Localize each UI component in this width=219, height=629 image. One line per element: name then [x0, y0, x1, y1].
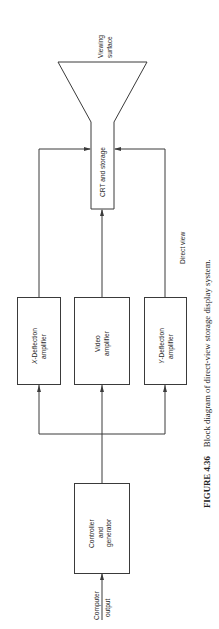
arrow-up-icon [163, 385, 167, 392]
video-label-line2: amplifier [103, 330, 111, 356]
video-label-line1: Video [94, 335, 101, 352]
x-deflection-to-crt-connector [39, 147, 91, 297]
figure-caption-body: Block diagram of direct-view storage dis… [202, 259, 212, 447]
arrow-right-icon [84, 147, 91, 151]
computer-output-label-line2: output [104, 598, 112, 617]
arrow-up-icon [100, 385, 104, 392]
video-to-crt-connector [100, 209, 104, 297]
crt-funnel [58, 62, 147, 122]
computer-output-input: Computer output [93, 573, 112, 620]
x-deflection-label-line2: amplifier [40, 333, 48, 359]
direct-view-annotation: Direct view [179, 232, 186, 264]
funnel-left-edge [58, 62, 91, 122]
direct-view-label: Direct view [179, 232, 186, 264]
arrow-up-icon [100, 573, 104, 580]
figure-caption-text: FIGURE 4.36Block diagram of direct-view … [202, 259, 212, 508]
arrow-left-icon [114, 147, 121, 151]
computer-output-label-line1: Computer [93, 590, 101, 620]
figure-number: FIGURE 4.36 [202, 456, 212, 508]
controller-label-line1: Controller [88, 519, 95, 548]
video-amplifier-block: Video amplifier [75, 298, 130, 385]
controller-bus-connector [37, 385, 167, 483]
controller-label-line2: and [97, 527, 104, 538]
viewing-surface-label-line1: Viewing [97, 35, 105, 58]
crt-storage-block: CRT and storage [91, 122, 114, 209]
figure-caption: FIGURE 4.36Block diagram of direct-view … [202, 259, 212, 508]
controller-generator-block: Controller and generator [75, 484, 130, 574]
y-deflection-to-crt-connector [114, 147, 165, 297]
viewing-surface-label: Viewing surface [97, 35, 113, 58]
arrow-up-icon [100, 209, 104, 216]
block-diagram: Viewing surface CRT and storage Direct v… [0, 0, 219, 629]
viewing-surface-label-line2: surface [106, 36, 113, 58]
x-deflection-amplifier-block: X-Deflection amplifier [18, 298, 61, 385]
arrow-up-icon [37, 385, 41, 392]
crt-storage-label: CRT and storage [99, 147, 107, 197]
y-deflection-amplifier-block: Y-Deflection amplifier [145, 298, 187, 385]
controller-label-line3: generator [105, 518, 113, 547]
y-deflection-label-line1: Y-Deflection [158, 328, 165, 364]
x-deflection-label-line1: X-Deflection [31, 328, 38, 365]
funnel-right-edge [114, 62, 147, 122]
y-deflection-label-line2: amplifier [167, 333, 175, 359]
